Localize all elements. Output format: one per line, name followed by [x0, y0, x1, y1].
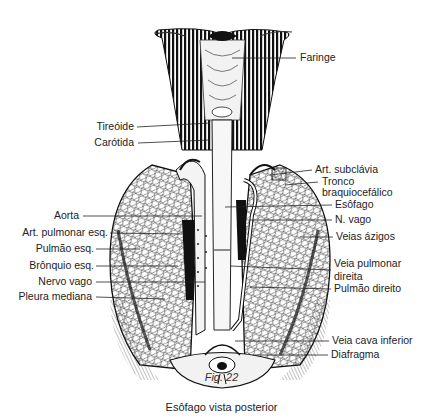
- label-art-pulmonar-esq: Art. pulmonar esq.: [22, 227, 108, 238]
- anatomical-figure: Tireóide Carótida Aorta Art. pulmonar es…: [0, 0, 443, 420]
- label-pulmao-esq: Pulmão esq.: [36, 243, 94, 254]
- label-veia-pulmonar: Veia pulmonar: [334, 258, 401, 269]
- figure-caption: Esôfago vista posterior: [0, 401, 443, 413]
- label-carotida: Carótida: [94, 137, 134, 148]
- label-braquiocefalico: braquiocefálico: [322, 187, 393, 198]
- figure-number: Fig. 22: [0, 371, 443, 383]
- label-pulmao-direito: Pulmão direito: [334, 283, 401, 294]
- label-tireoide: Tireóide: [96, 121, 134, 132]
- label-nervo-vago: Nervo vago: [38, 276, 92, 287]
- label-pleura-mediana: Pleura mediana: [18, 291, 92, 302]
- label-veia-cava-inferior: Veia cava inferior: [332, 335, 413, 346]
- label-faringe: Faringe: [300, 52, 336, 63]
- label-diafragma: Diafragma: [331, 349, 379, 360]
- label-n-vago: N. vago: [335, 214, 371, 225]
- label-esofago: Esôfago: [335, 199, 374, 210]
- label-veias-azigos: Veias ázigos: [336, 231, 395, 242]
- label-art-subclavia: Art. subclávia: [315, 164, 378, 175]
- label-direita: direita: [334, 271, 363, 282]
- label-aorta: Aorta: [54, 210, 79, 221]
- label-bronquio-esq: Brônquio esq.: [29, 260, 94, 271]
- esophagus: [212, 120, 232, 330]
